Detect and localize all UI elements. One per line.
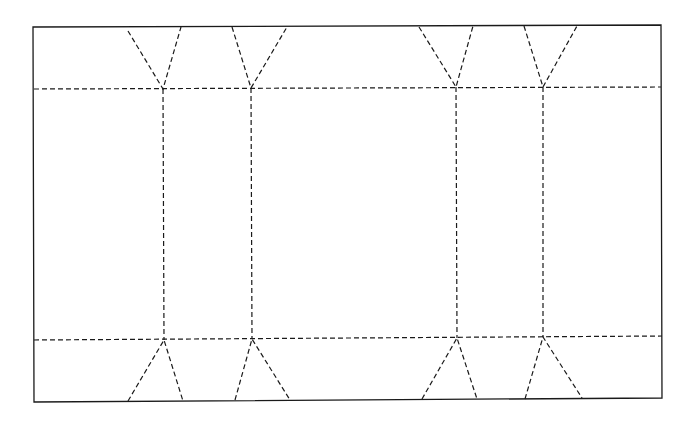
top-gusset-2: [232, 27, 287, 88]
vertical-fold-1: [163, 89, 164, 340]
bottom-gusset-2: [235, 339, 290, 400]
outer-outline: [33, 25, 662, 402]
folding-template-diagram: [0, 0, 695, 423]
vertical-fold-3: [456, 87, 457, 338]
vertical-fold-2: [251, 88, 252, 339]
bottom-gusset-3: [422, 338, 477, 399]
top-gusset-4: [524, 26, 577, 87]
bottom-gusset-4: [525, 337, 582, 399]
bottom-gusset-1: [128, 340, 183, 401]
bottom-fold-line: [34, 336, 662, 340]
top-fold-line: [34, 87, 661, 89]
top-gusset-3: [419, 26, 473, 87]
top-gusset-1: [128, 27, 181, 89]
